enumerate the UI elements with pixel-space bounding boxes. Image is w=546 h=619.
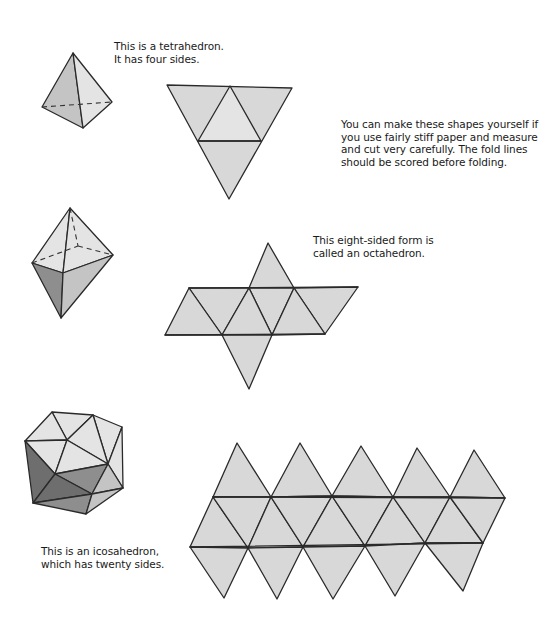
icosahedron-net [190,443,505,599]
icosahedron-solid [25,412,123,514]
tetrahedron-net [167,85,292,199]
octahedron-solid [32,208,113,318]
tetrahedron-solid [42,53,112,128]
diagram-canvas [0,0,546,619]
octahedron-net [165,243,358,389]
